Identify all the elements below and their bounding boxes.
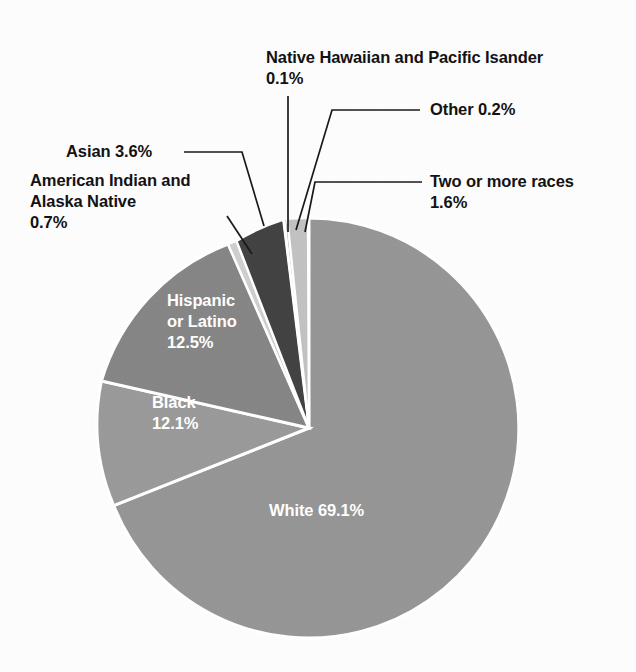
callout-asian: Asian 3.6% bbox=[66, 141, 152, 162]
leader-line-asian bbox=[184, 152, 264, 226]
callout-two-or-more-races: Two or more races 1.6% bbox=[430, 171, 574, 213]
callout-native-hawaiian-and-pacific-isander: Native Hawaiian and Pacific Isander 0.1% bbox=[266, 47, 543, 89]
slice-label-hispanic-or-latino: Hispanic or Latino 12.5% bbox=[167, 290, 237, 353]
pie-chart-page: Native Hawaiian and Pacific Isander 0.1%… bbox=[0, 0, 636, 672]
pie-chart-graphic bbox=[0, 0, 636, 672]
callout-american-indian-and-alaska-native: American Indian and Alaska Native 0.7% bbox=[30, 170, 190, 232]
slice-label-black: Black 12.1% bbox=[152, 392, 198, 434]
leader-line-other bbox=[296, 110, 420, 230]
callout-other: Other 0.2% bbox=[430, 99, 515, 120]
slice-label-white: White 69.1% bbox=[269, 500, 364, 521]
